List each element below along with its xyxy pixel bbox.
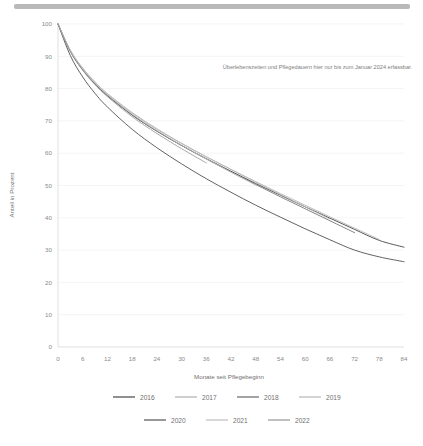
series-line-2019 <box>58 24 330 219</box>
y-tick-0: 0 <box>49 343 53 350</box>
chart-annotation-0: Überlebenszeiten und Pflegedauern hier n… <box>223 64 413 70</box>
x-tick-36: 36 <box>203 355 210 362</box>
series-line-2016 <box>58 24 404 247</box>
y-tick-70: 70 <box>45 117 52 124</box>
y-tick-50: 50 <box>45 182 52 189</box>
y-axis-title: Anteil in Prozent <box>8 172 15 217</box>
y-tick-80: 80 <box>45 85 52 92</box>
x-tick-66: 66 <box>326 355 333 362</box>
legend-label-2016[interactable]: 2016 <box>140 394 155 401</box>
x-tick-60: 60 <box>302 355 309 362</box>
x-tick-48: 48 <box>252 355 259 362</box>
x-tick-0: 0 <box>56 355 60 362</box>
series-line-2018 <box>58 24 355 233</box>
series-line-2020 <box>58 24 404 262</box>
y-tick-10: 10 <box>45 311 52 318</box>
series-group <box>58 24 404 262</box>
x-tick-24: 24 <box>153 355 160 362</box>
legend-label-2017[interactable]: 2017 <box>202 394 217 401</box>
x-tick-labels-group: 0612182430364248546066727884 <box>56 355 408 362</box>
annotations-group: Überlebenszeiten und Pflegedauern hier n… <box>223 64 413 70</box>
x-tick-30: 30 <box>178 355 185 362</box>
legend-label-2019[interactable]: 2019 <box>326 394 341 401</box>
y-tick-20: 20 <box>45 279 52 286</box>
y-tick-60: 60 <box>45 149 52 156</box>
legend-label-2020[interactable]: 2020 <box>171 417 186 424</box>
x-tick-54: 54 <box>277 355 284 362</box>
y-tick-100: 100 <box>42 20 53 27</box>
y-tick-90: 90 <box>45 53 52 60</box>
series-line-2022 <box>58 24 206 163</box>
legend-label-2021[interactable]: 2021 <box>233 417 248 424</box>
x-tick-84: 84 <box>401 355 408 362</box>
chart-svg: 0102030405060708090100 06121824303642485… <box>0 0 423 446</box>
y-tick-labels-group: 0102030405060708090100 <box>42 20 53 350</box>
x-tick-18: 18 <box>129 355 136 362</box>
x-tick-72: 72 <box>351 355 358 362</box>
legend-label-2022[interactable]: 2022 <box>295 417 310 424</box>
y-tick-40: 40 <box>45 214 52 221</box>
legend-group: 2016201720182019202020212022 <box>113 394 341 424</box>
y-tick-30: 30 <box>45 246 52 253</box>
x-tick-6: 6 <box>81 355 85 362</box>
x-axis-title: Monate seit Pflegebeginn <box>194 373 264 380</box>
survival-curve-chart: 0102030405060708090100 06121824303642485… <box>0 0 423 446</box>
series-line-2021 <box>58 24 256 185</box>
legend-label-2018[interactable]: 2018 <box>264 394 279 401</box>
x-tick-12: 12 <box>104 355 111 362</box>
x-tick-78: 78 <box>376 355 383 362</box>
x-tick-42: 42 <box>228 355 235 362</box>
